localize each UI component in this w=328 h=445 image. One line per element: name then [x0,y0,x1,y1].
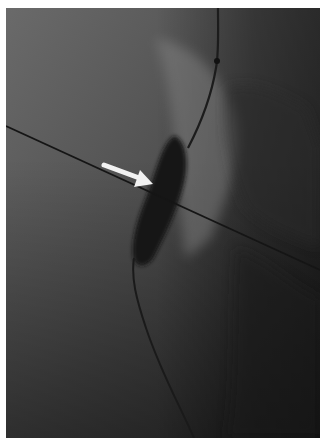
fluoroscopy-image [6,8,320,438]
wire-marker [214,58,220,64]
fluoroscopy-svg [6,8,320,438]
